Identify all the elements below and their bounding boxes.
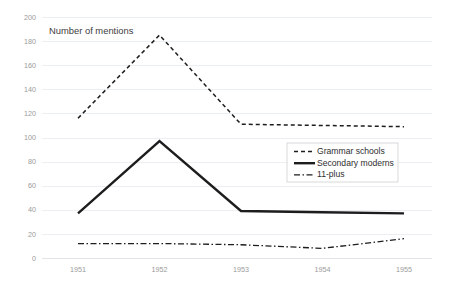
legend-label[interactable]: Grammar schools [317, 146, 385, 156]
x-tick-label: 1952 [152, 265, 168, 274]
y-tick-label: 100 [24, 133, 36, 142]
y-tick-label: 120 [24, 109, 36, 118]
x-tick-label: 1955 [396, 265, 412, 274]
x-axis-tick-labels: 19511952195319541955 [70, 265, 412, 274]
chart-canvas: 020406080100120140160180200 195119521953… [0, 0, 453, 298]
y-tick-label: 40 [28, 205, 36, 214]
y-tick-label: 180 [24, 37, 36, 46]
y-tick-label: 200 [24, 13, 36, 22]
x-tick-label: 1951 [70, 265, 86, 274]
series-line-11-plus [78, 239, 404, 249]
legend-label[interactable]: 11-plus [317, 169, 345, 179]
y-tick-label: 20 [28, 230, 36, 239]
gridlines [42, 18, 432, 259]
y-tick-label: 160 [24, 61, 36, 70]
x-tick-label: 1953 [233, 265, 249, 274]
y-tick-label: 0 [32, 254, 36, 263]
y-axis-tick-labels: 020406080100120140160180200 [24, 13, 36, 263]
axis-title: Number of mentions [49, 25, 134, 36]
y-tick-label: 80 [28, 157, 36, 166]
series-line-grammar-schools [78, 35, 404, 127]
y-tick-label: 140 [24, 85, 36, 94]
y-tick-label: 60 [28, 181, 36, 190]
x-tick-label: 1954 [315, 265, 331, 274]
series-lines [78, 35, 404, 248]
legend-label[interactable]: Secondary moderns [317, 158, 394, 168]
line-chart: 020406080100120140160180200 195119521953… [0, 0, 453, 298]
legend[interactable]: Grammar schoolsSecondary moderns11-plus [287, 143, 398, 182]
